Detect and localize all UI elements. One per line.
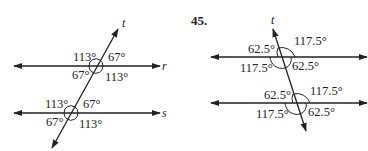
angle-lower-lower-right: 62.5° xyxy=(308,105,335,119)
line-label-r: r xyxy=(162,59,167,73)
angle-lower-upper-right: 117.5° xyxy=(310,84,343,98)
figure-canvas: t r s 113° 67° 67° 113° 113° 67° 67° 113… xyxy=(0,0,368,151)
transversal-label-t: t xyxy=(122,16,126,30)
angle-s-upper-left: 113° xyxy=(45,97,68,111)
angle-s-lower-right: 113° xyxy=(79,117,102,131)
exercise-number: 45. xyxy=(191,13,207,28)
transversal-label-t: t xyxy=(271,13,275,27)
left-figure: t r s 113° 67° 67° 113° 113° 67° 67° 113… xyxy=(14,16,167,148)
angle-upper-lower-left: 117.5° xyxy=(240,61,273,75)
angle-upper-upper-left: 62.5° xyxy=(248,42,275,56)
angle-s-upper-right: 67° xyxy=(83,97,101,111)
angle-r-lower-right: 113° xyxy=(105,70,128,84)
angle-r-upper-right: 67° xyxy=(108,50,126,64)
angle-upper-upper-right: 117.5° xyxy=(294,34,327,48)
angle-s-lower-left: 67° xyxy=(46,115,64,129)
angle-lower-lower-left: 117.5° xyxy=(256,107,289,121)
angle-upper-lower-right: 62.5° xyxy=(292,59,319,73)
right-figure: 45. t 62.5° 117.5° 117.5° 62.5° 62.5° 11… xyxy=(191,13,367,131)
angle-r-lower-left: 67° xyxy=(72,68,90,82)
line-label-s: s xyxy=(162,106,167,120)
angle-r-upper-left: 113° xyxy=(73,50,96,64)
angle-lower-upper-left: 62.5° xyxy=(264,88,291,102)
